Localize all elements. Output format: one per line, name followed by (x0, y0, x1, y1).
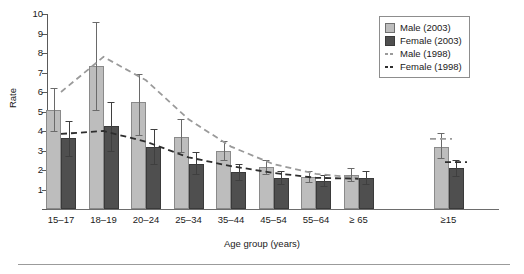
y-axis-tick-label: 5 (38, 107, 43, 117)
legend-dashed-line-icon (385, 62, 395, 72)
x-axis-title: Age group (years) (0, 238, 524, 249)
legend-item-label: Male (2003) (400, 22, 451, 33)
x-axis-tick-label: 45–54 (260, 214, 286, 225)
trend-line (61, 57, 359, 178)
x-axis-line (47, 209, 499, 210)
legend-item-label: Female (2003) (400, 35, 462, 46)
y-axis-tick-label: 3 (38, 146, 43, 156)
trend-line (61, 131, 359, 179)
x-axis-tick-label: ≥15 (441, 214, 457, 225)
x-axis-tick-label: ≥ 65 (349, 214, 367, 225)
legend-swatch-icon (385, 36, 395, 46)
y-axis-tick-label: 1 (38, 185, 43, 195)
x-axis-tick-label: 15–17 (48, 214, 74, 225)
y-axis-tick-label: 7 (38, 68, 43, 78)
footer-rule (18, 264, 510, 265)
legend-item: Male (1998) (385, 47, 462, 60)
x-axis-tick-label: 20–24 (133, 214, 159, 225)
y-axis-tick-label: 10 (32, 9, 43, 19)
y-axis-tick-label: 4 (38, 126, 43, 136)
x-axis-tick-label: 18–19 (90, 214, 116, 225)
legend-item-label: Male (1998) (400, 48, 451, 59)
y-axis-tick-mark (42, 209, 47, 210)
legend-item: Female (1998) (385, 60, 462, 73)
legend-item: Female (2003) (385, 34, 462, 47)
legend-dashed-line-icon (385, 49, 395, 59)
legend-swatch-icon (385, 23, 395, 33)
y-axis-tick-label: 6 (38, 87, 43, 97)
y-axis-tick-label: 9 (38, 29, 43, 39)
chart-legend: Male (2003)Female (2003)Male (1998)Femal… (379, 16, 470, 78)
y-axis-title: Rate (7, 88, 18, 108)
x-axis-tick-label: 25–34 (175, 214, 201, 225)
x-axis-tick-label: 35–44 (218, 214, 244, 225)
legend-item: Male (2003) (385, 21, 462, 34)
x-axis-tick-label: 55–64 (303, 214, 329, 225)
chart-figure: Rate Age group (years) 12345678910 15–17… (0, 0, 524, 274)
y-axis-tick-label: 2 (38, 165, 43, 175)
legend-item-label: Female (1998) (400, 61, 462, 72)
y-axis-tick-label: 8 (38, 48, 43, 58)
